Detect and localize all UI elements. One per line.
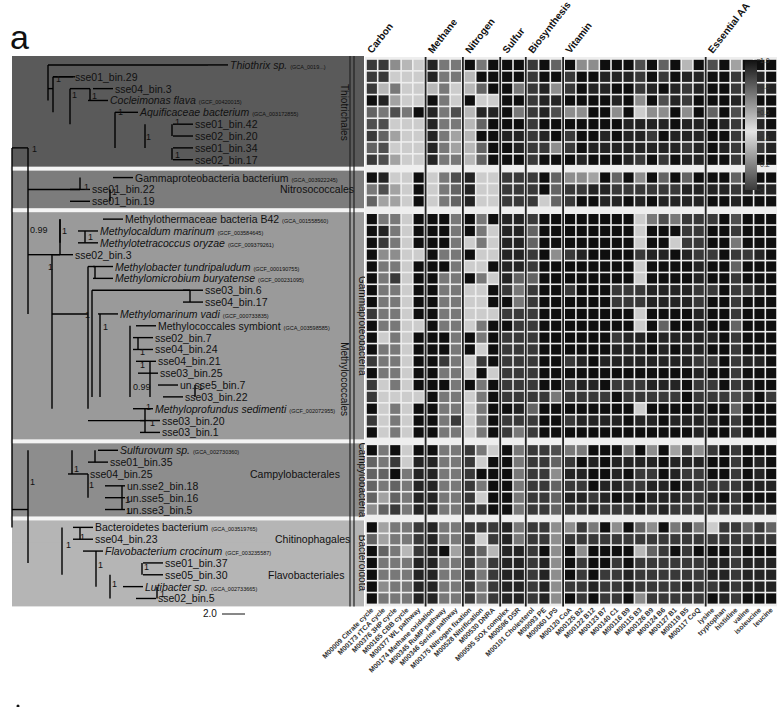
heatmap-row <box>367 238 776 248</box>
category-label: Vitamin <box>563 20 594 55</box>
heatmap-row <box>367 84 776 94</box>
heatmap-row <box>367 285 776 295</box>
heatmap-row <box>367 131 776 141</box>
heatmap-row <box>367 469 776 479</box>
heatmap-row <box>367 404 776 414</box>
heatmap-row <box>367 72 776 82</box>
heatmap-row <box>367 119 776 129</box>
svg-text:0.6: 0.6 <box>760 109 770 116</box>
heatmap-row <box>367 368 776 378</box>
category-label: Nitrogen <box>463 16 497 55</box>
heatmap-row <box>367 143 776 153</box>
heatmap-row <box>367 226 776 236</box>
heatmap-row <box>367 95 776 105</box>
heatmap-row <box>367 107 776 117</box>
heatmap-row <box>367 333 776 343</box>
heatmap-row <box>367 172 776 182</box>
heatmap-row <box>367 321 776 331</box>
heatmap: CarbonMethaneNitrogenSulfurBiosynthesisV… <box>0 0 777 707</box>
heatmap-row <box>367 309 776 319</box>
category-label: Carbon <box>365 21 395 55</box>
heatmap-row <box>367 380 776 390</box>
category-label: Methane <box>426 16 460 55</box>
heatmap-row <box>367 273 776 283</box>
category-label: Essential AA <box>706 1 752 56</box>
heatmap-row <box>367 481 776 491</box>
heatmap-row <box>367 445 776 455</box>
heatmap-row <box>367 582 776 592</box>
heatmap-row <box>367 534 776 544</box>
heatmap-row <box>367 457 776 467</box>
svg-text:1.0: 1.0 <box>760 57 770 64</box>
heatmap-row <box>367 356 776 366</box>
svg-text:0.8: 0.8 <box>760 83 770 90</box>
heatmap-row <box>367 60 776 70</box>
heatmap-row <box>367 593 776 603</box>
heatmap-row <box>367 184 776 194</box>
heatmap-row <box>367 522 776 532</box>
heatmap-row <box>367 214 776 224</box>
heatmap-row <box>367 392 776 402</box>
heatmap-row <box>367 261 776 271</box>
category-label: Sulfur <box>500 26 527 56</box>
svg-text:0: 0 <box>760 187 764 194</box>
heatmap-row <box>367 297 776 307</box>
heatmap-row <box>367 493 776 503</box>
heatmap-row <box>367 415 776 425</box>
heatmap-row <box>367 546 776 556</box>
heatmap-row <box>367 427 776 437</box>
heatmap-row <box>367 155 776 165</box>
heatmap-row <box>367 558 776 568</box>
svg-text:0.2: 0.2 <box>760 161 770 168</box>
heatmap-row <box>367 250 776 260</box>
svg-text:0.4: 0.4 <box>760 135 770 142</box>
heatmap-row <box>367 570 776 580</box>
heatmap-row <box>367 504 776 514</box>
heatmap-row <box>367 196 776 206</box>
heatmap-row <box>367 344 776 354</box>
